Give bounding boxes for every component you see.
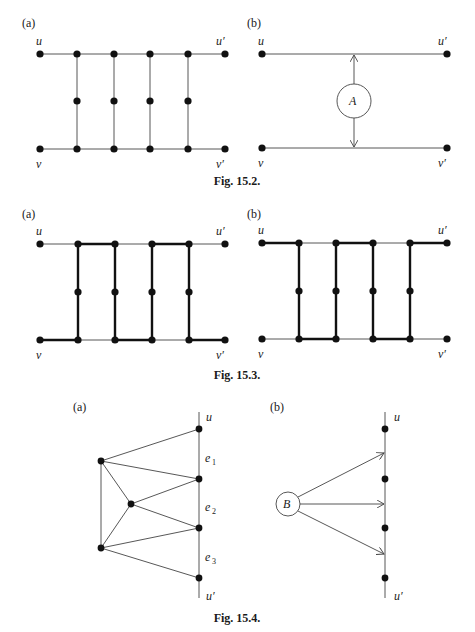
panel-label: (b) (270, 400, 284, 414)
fig-15-4-panel-a: (a) u u′ e 1 e 2 e 3 (73, 400, 216, 603)
panel-label: (a) (22, 16, 35, 30)
vertex-label-v-prime: v′ (438, 347, 446, 361)
svg-text:e: e (205, 500, 211, 514)
vertex-label-u-prime: u′ (438, 223, 447, 237)
fig-15-2-panel-a: (a) u u′ v v′ (22, 16, 229, 171)
svg-text:e: e (205, 451, 211, 465)
vertices (98, 426, 203, 582)
figure-caption: Fig. 15.3. (214, 368, 261, 382)
vertex-label-v-prime: v′ (216, 348, 224, 362)
figure-caption: Fig. 15.4. (214, 611, 261, 625)
vertex-label-u-prime: u′ (438, 34, 447, 48)
panel-label: (b) (247, 207, 261, 221)
vertex-label-v: v (36, 157, 42, 171)
arrow-to-e1 (298, 453, 384, 497)
panel-label: (a) (73, 400, 86, 414)
vertex-label-u: u (394, 410, 400, 424)
vertex-label-u-prime: u′ (394, 589, 403, 603)
vertex-label-u-prime: u′ (206, 589, 215, 603)
gadget-edges (101, 429, 199, 578)
panel-label: (b) (247, 16, 261, 30)
vertices (36, 50, 228, 152)
fig-15-3-panel-a: (a) u u′ v v′ (22, 207, 229, 362)
highlighted-path (262, 243, 447, 339)
gadget-label: B (283, 497, 291, 511)
arrow-to-e3 (298, 511, 384, 554)
vertex-label-u: u (258, 34, 264, 48)
vertices (258, 239, 450, 342)
vertex-label-u-prime: u′ (216, 224, 225, 238)
gadget-label: A (348, 94, 357, 108)
vertex-label-u: u (258, 223, 264, 237)
edge-label-e3: e 3 (205, 550, 216, 566)
svg-text:3: 3 (212, 557, 216, 566)
vertex-label-u: u (36, 224, 42, 238)
vertex-label-u-prime: u′ (216, 34, 225, 48)
edge-label-e2: e 2 (205, 500, 216, 516)
vertex-label-v-prime: v′ (438, 156, 446, 170)
figure-caption: Fig. 15.2. (214, 174, 261, 188)
highlighted-path (40, 244, 225, 340)
fig-15-4-panel-b: (b) B u u′ (270, 400, 403, 603)
edge-label-e1: e 1 (205, 451, 216, 467)
vertex-label-u: u (36, 34, 42, 48)
svg-text:e: e (205, 550, 211, 564)
fig-15-2-panel-b: (b) A u u′ v v′ (247, 16, 451, 170)
vertex-label-v: v (258, 347, 264, 361)
vertex-label-v: v (258, 156, 264, 170)
vertex-label-v-prime: v′ (216, 157, 224, 171)
vertex-label-u: u (206, 410, 212, 424)
fig-15-3-panel-b: (b) u u′ v v′ (247, 207, 451, 361)
vertices (36, 240, 228, 343)
figure-canvas: (a) u u′ v v′ (b) A u u′ v v′ Fig. (0, 0, 475, 632)
panel-label: (a) (22, 207, 35, 221)
svg-text:1: 1 (212, 458, 216, 467)
svg-text:2: 2 (212, 507, 216, 516)
vertex-label-v: v (36, 348, 42, 362)
